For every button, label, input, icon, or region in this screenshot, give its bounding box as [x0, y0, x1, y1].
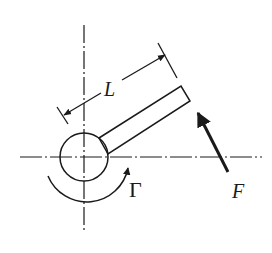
dimension-line-left — [64, 93, 101, 115]
moment-label: Γ — [129, 177, 142, 202]
length-label: L — [103, 78, 115, 100]
dimension-line-right — [122, 55, 165, 80]
dimension-extension-left — [57, 107, 68, 124]
dimension-extension-right — [158, 43, 177, 78]
force-arrow — [198, 113, 228, 172]
moment-arc — [48, 168, 128, 202]
mechanics-diagram: L Γ F — [0, 0, 272, 253]
force-label: F — [231, 180, 245, 202]
